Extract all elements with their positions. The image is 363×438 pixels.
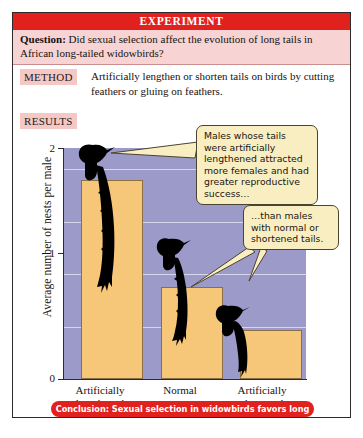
question-strip: Question: Did sexual selection affect th… [13,30,350,65]
question-label: Question: [20,33,66,45]
method-tag: METHOD [20,69,77,85]
callout-normal-shortened: …than males with normal or shortened tai… [243,205,339,250]
method-text: Artificially lengthen or shorten tails o… [91,69,341,98]
x-tick-line-1: Normal [141,384,219,397]
widowbird-short-tail-icon [213,300,253,380]
callout-lengthened-success: Males whose tails were artificially leng… [196,125,318,205]
y-tick-label-1: 1 [35,247,55,259]
x-tick-line-1: Artificially [215,384,309,397]
callout-2-leader-lines [179,243,269,291]
y-tick-label-0: 0 [35,372,55,384]
x-axis-line [63,379,307,380]
callout-1-leader-line [95,139,205,169]
y-axis-line [63,148,64,380]
experiment-figure: EXPERIMENT Question: Did sexual selectio… [12,12,351,418]
x-tick-line-1: Artificially [53,384,147,397]
x-tick-label-normal: Normal [141,384,219,397]
conclusion-pill: Conclusion: Sexual selection in widowbir… [51,401,314,417]
y-axis-label: Average number of nests per male [41,137,53,337]
question-text: Question: Did sexual selection affect th… [20,32,343,60]
y-tick-label-2: 2 [35,142,55,154]
experiment-banner: EXPERIMENT [13,13,350,30]
results-bar-chart: Average number of nests per male 2 1 0 A… [13,123,352,398]
